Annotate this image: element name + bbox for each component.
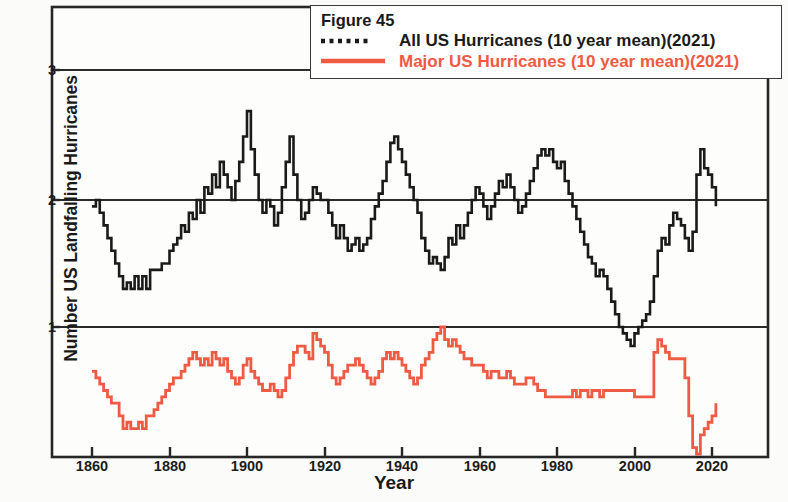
legend-entry-major-us-hurricanes: Major US Hurricanes (10 year mean)(2021) [319,52,773,71]
ytick-label-3: 3 [40,62,56,78]
x-axis-title: Year [0,472,788,494]
legend-entry-all-us-hurricanes: All US Hurricanes (10 year mean)(2021) [319,31,773,50]
dotted-line-icon [319,33,393,49]
legend-label-major-us-hurricanes: Major US Hurricanes (10 year mean)(2021) [399,52,739,71]
ytick-label-1: 1 [40,319,56,335]
legend-solid-line-swatch-icon [319,53,393,69]
legend-label-all-us-hurricanes: All US Hurricanes (10 year mean)(2021) [399,31,716,50]
solid-line-icon [319,53,393,69]
chart-figure: Number US Landfalling Hurricanes 3 2 1 1… [0,0,788,502]
legend-title: Figure 45 [321,11,773,29]
legend-dotted-line-swatch-icon [319,33,393,49]
chart-legend: Figure 45 All US Hurricanes (10 year mea… [310,5,782,79]
y-axis-title: Number US Landfalling Hurricanes [61,54,82,384]
ytick-label-2: 2 [40,192,56,208]
